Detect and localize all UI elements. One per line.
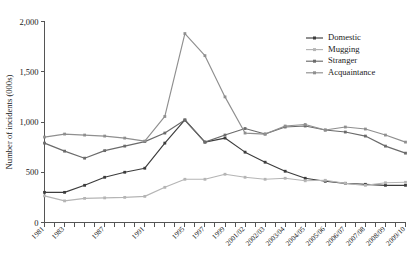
data-point-mugging bbox=[344, 182, 347, 185]
x-tick-label-group: 2001/02 bbox=[224, 225, 247, 248]
data-point-mugging bbox=[103, 196, 106, 199]
y-axis-title: Number of incidents (000s) bbox=[4, 74, 14, 169]
data-point-acquaintance bbox=[43, 136, 46, 139]
data-point-acquaintance bbox=[83, 134, 86, 137]
data-point-mugging bbox=[284, 177, 287, 180]
x-tick-label: 2009/10 bbox=[385, 225, 408, 248]
data-point-mugging bbox=[143, 195, 146, 198]
data-point-stranger bbox=[183, 119, 186, 122]
x-tick-label: 1981 bbox=[30, 225, 46, 241]
data-point-stranger bbox=[103, 149, 106, 152]
data-point-mugging bbox=[304, 179, 307, 182]
data-point-stranger bbox=[384, 145, 387, 148]
x-tick-label-group: 1983 bbox=[50, 225, 66, 241]
data-point-domestic bbox=[63, 191, 66, 194]
data-point-acquaintance bbox=[143, 140, 146, 143]
x-tick-label-group: 2006/07 bbox=[324, 225, 347, 248]
legend-label-mugging: Mugging bbox=[328, 44, 360, 54]
x-tick-label-group: 2005/06 bbox=[304, 225, 327, 248]
x-tick-label: 1991 bbox=[130, 225, 146, 241]
data-point-stranger bbox=[163, 132, 166, 135]
data-point-mugging bbox=[43, 194, 46, 197]
y-axis-title-group: Number of incidents (000s) bbox=[4, 74, 14, 169]
data-point-acquaintance bbox=[344, 126, 347, 129]
data-point-acquaintance bbox=[244, 132, 247, 135]
legend-marker-stranger bbox=[313, 60, 316, 63]
data-point-stranger bbox=[83, 157, 86, 160]
y-tick-label: 1,000 bbox=[19, 117, 38, 127]
data-point-mugging bbox=[324, 179, 327, 182]
data-point-acquaintance bbox=[103, 135, 106, 138]
data-point-acquaintance bbox=[224, 95, 227, 98]
data-point-acquaintance bbox=[123, 137, 126, 140]
data-point-stranger bbox=[404, 152, 407, 155]
data-point-acquaintance bbox=[364, 128, 367, 131]
legend-marker-acquaintance bbox=[313, 71, 316, 74]
data-point-acquaintance bbox=[183, 32, 186, 35]
y-tick-label: 500 bbox=[26, 167, 39, 177]
data-point-domestic bbox=[264, 161, 267, 164]
chart-canvas: 05001,0001,5002,000198119831987199119951… bbox=[0, 0, 415, 268]
data-point-stranger bbox=[244, 127, 247, 130]
data-point-acquaintance bbox=[63, 133, 66, 136]
x-tick-label-group: 2007/08 bbox=[344, 225, 367, 248]
data-point-acquaintance bbox=[284, 125, 287, 128]
legend-label-domestic: Domestic bbox=[328, 32, 361, 42]
x-tick-label: 2005/06 bbox=[304, 225, 327, 248]
x-tick-label-group: 2003/04 bbox=[264, 225, 287, 248]
x-tick-label-group: 2008/09 bbox=[365, 225, 388, 248]
x-tick-label-group: 1981 bbox=[30, 225, 46, 241]
x-tick-label: 1999 bbox=[211, 225, 227, 241]
x-tick-label: 2002/03 bbox=[244, 225, 267, 248]
data-point-mugging bbox=[123, 196, 126, 199]
data-point-stranger bbox=[204, 141, 207, 144]
data-point-stranger bbox=[63, 150, 66, 153]
data-point-domestic bbox=[304, 177, 307, 180]
data-point-mugging bbox=[264, 178, 267, 181]
data-point-mugging bbox=[244, 176, 247, 179]
data-point-domestic bbox=[163, 142, 166, 145]
x-tick-label: 2003/04 bbox=[264, 225, 287, 248]
data-point-mugging bbox=[163, 186, 166, 189]
data-point-mugging bbox=[63, 199, 66, 202]
x-tick-label: 1997 bbox=[191, 225, 207, 241]
y-tick-label: 2,000 bbox=[19, 17, 38, 27]
data-point-domestic bbox=[284, 170, 287, 173]
data-point-acquaintance bbox=[324, 129, 327, 132]
data-point-mugging bbox=[204, 178, 207, 181]
data-point-domestic bbox=[244, 151, 247, 154]
x-tick-label: 2001/02 bbox=[224, 225, 247, 248]
data-point-domestic bbox=[43, 191, 46, 194]
data-point-domestic bbox=[224, 137, 227, 140]
x-tick-label-group: 2002/03 bbox=[244, 225, 267, 248]
data-point-mugging bbox=[183, 178, 186, 181]
y-tick-label: 1,500 bbox=[19, 67, 38, 77]
data-point-mugging bbox=[404, 181, 407, 184]
x-tick-label: 2004/05 bbox=[284, 225, 307, 248]
legend-label-acquaintance: Acquaintance bbox=[328, 67, 375, 77]
data-point-domestic bbox=[123, 171, 126, 174]
x-tick-label-group: 2004/05 bbox=[284, 225, 307, 248]
y-tick-label: 0 bbox=[34, 218, 38, 228]
x-tick-label: 1987 bbox=[90, 225, 106, 241]
x-tick-label-group: 1991 bbox=[130, 225, 146, 241]
data-point-stranger bbox=[224, 134, 227, 137]
data-point-stranger bbox=[364, 135, 367, 138]
x-tick-label: 2006/07 bbox=[324, 225, 347, 248]
legend-label-stranger: Stranger bbox=[328, 55, 357, 65]
data-point-domestic bbox=[103, 176, 106, 179]
x-tick-label-group: 1997 bbox=[191, 225, 207, 241]
legend-marker-domestic bbox=[313, 37, 316, 40]
data-point-mugging bbox=[83, 197, 86, 200]
data-point-domestic bbox=[404, 184, 407, 187]
data-point-stranger bbox=[344, 131, 347, 134]
line-chart: 05001,0001,5002,000198119831987199119951… bbox=[0, 0, 415, 268]
data-point-stranger bbox=[43, 142, 46, 145]
data-point-acquaintance bbox=[204, 54, 207, 57]
data-point-mugging bbox=[384, 181, 387, 184]
data-point-acquaintance bbox=[163, 115, 166, 118]
x-tick-label: 2007/08 bbox=[344, 225, 367, 248]
x-tick-label-group: 1987 bbox=[90, 225, 106, 241]
legend-marker-mugging bbox=[313, 48, 316, 51]
x-tick-label-group: 1999 bbox=[211, 225, 227, 241]
